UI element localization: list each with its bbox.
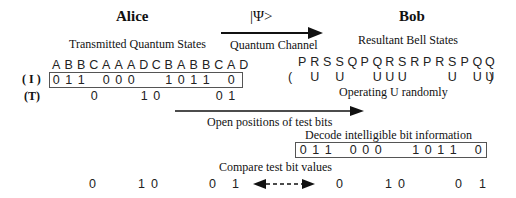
alice-title: Alice — [116, 8, 148, 25]
alice-info-bits-row: 011 000 1011 0 — [50, 73, 250, 87]
decode-label: Decode intelligible bit information — [305, 128, 472, 143]
bob-title: Bob — [399, 8, 425, 25]
u-close-paren: ) — [489, 70, 493, 84]
row-t-label: (T) — [24, 89, 40, 104]
operating-u-label: Operating U randomly — [339, 85, 448, 100]
bob-letters-row: PRSSQPQRSRPRSPQQ — [296, 55, 496, 69]
decoded-bits-row: 011 000 1011 0 — [297, 143, 485, 157]
alice-subtitle: Transmitted Quantum States — [69, 37, 206, 52]
compare-double-arrow — [253, 179, 315, 189]
quantum-channel-label: Quantum Channel — [230, 38, 318, 53]
bob-subtitle: Resultant Bell States — [358, 33, 458, 48]
row-i-label: ( I ) — [22, 72, 41, 87]
bob-compare-bit: 1 — [385, 177, 392, 191]
bob-compare-bit: 0 — [398, 177, 405, 191]
bob-compare-bit: 1 — [479, 177, 486, 191]
compare-label: Compare test bit values — [219, 160, 332, 175]
u-open-paren: ( — [288, 70, 292, 84]
bob-compare-bit: 0 — [336, 177, 343, 191]
alice-compare-bit: 1 — [138, 177, 145, 191]
alice-compare-bit: 0 — [89, 177, 96, 191]
alice-letters-row: ABBCAAADCBABBCAD — [50, 58, 250, 72]
alice-compare-bit: 1 — [232, 177, 239, 191]
bob-u-marks-row: U U UUU U UU — [296, 70, 496, 84]
psi-state-label: |Ψ> — [250, 8, 273, 25]
bob-compare-bit: 0 — [455, 177, 462, 191]
alice-test-bits-row: 0 10 01 — [63, 89, 263, 103]
alice-compare-bit: 0 — [151, 177, 158, 191]
alice-compare-bit: 0 — [209, 177, 216, 191]
